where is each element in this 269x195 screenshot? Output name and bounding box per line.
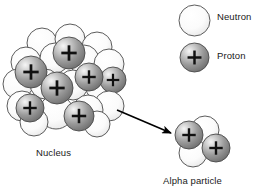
nucleus-proton-11 bbox=[100, 67, 126, 93]
nucleus-proton-23 bbox=[64, 101, 94, 131]
nucleus-cluster bbox=[3, 24, 126, 137]
nucleus-proton-21 bbox=[41, 72, 73, 104]
nucleus-label: Nucleus bbox=[36, 147, 71, 158]
legend-neutron-0 bbox=[179, 5, 210, 36]
diagram-canvas bbox=[0, 0, 269, 195]
decay-arrow bbox=[117, 110, 171, 133]
alpha-particle-label: Alpha particle bbox=[163, 175, 222, 186]
legend-proton-1 bbox=[180, 43, 209, 72]
alpha-proton-3 bbox=[202, 134, 230, 162]
nucleus-proton-20 bbox=[75, 63, 103, 91]
neutron-sphere bbox=[179, 5, 210, 36]
nucleus-proton-22 bbox=[16, 94, 44, 122]
alpha-particle-cluster bbox=[175, 116, 230, 167]
legend-label-neutron: Neutron bbox=[217, 11, 252, 22]
alpha-proton-2 bbox=[175, 121, 203, 149]
legend-swatches bbox=[179, 5, 210, 72]
atomic-nucleus-decay-diagram: Nucleus Alpha particle Neutron Proton bbox=[0, 0, 269, 195]
decay-arrow-line bbox=[117, 110, 171, 133]
nucleus-proton-18 bbox=[53, 37, 85, 69]
legend-label-proton: Proton bbox=[217, 50, 246, 61]
